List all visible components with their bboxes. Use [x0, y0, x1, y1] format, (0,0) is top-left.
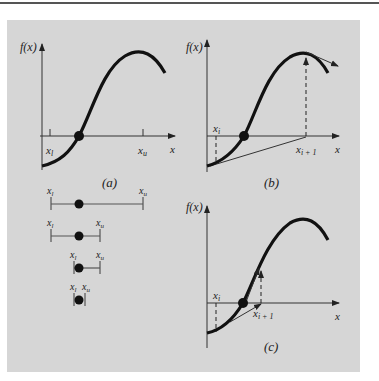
xl-label: xl — [45, 144, 54, 158]
ylabel: f(x) — [186, 200, 203, 214]
xi-label: xi — [212, 122, 220, 136]
interval-row-2: xl xu — [46, 217, 104, 242]
interval-row-1: xl xu — [46, 185, 147, 210]
svg-text:xu: xu — [95, 249, 104, 262]
tangent-line — [210, 137, 306, 166]
panel-a: f(x) xl xu x (a) — [20, 40, 175, 190]
xi-label: xi — [212, 289, 220, 303]
xlabel: x — [169, 143, 175, 155]
figure-svg: f(x) xl xu x (a) xl xu xl xu xl xu — [0, 0, 379, 381]
bisection-intervals: xl xu xl xu xl xu xl xu — [46, 185, 147, 306]
panel-c: f(x) xi xi + 1 x (c) — [186, 200, 340, 354]
svg-text:xl: xl — [46, 185, 53, 198]
interval-row-4: xl xu — [69, 281, 90, 306]
xi1-label: xi + 1 — [252, 307, 274, 321]
panel-b: f(x) xi xi + 1 x (b) — [186, 40, 340, 190]
svg-text:xl: xl — [69, 281, 76, 294]
root-dot — [75, 264, 84, 273]
root-dot — [238, 298, 248, 308]
xlabel: x — [334, 310, 340, 322]
root-dot — [75, 296, 84, 305]
ylabel: f(x) — [20, 40, 37, 54]
svg-text:xu: xu — [81, 281, 90, 294]
caption-c: (c) — [264, 339, 278, 354]
root-dot — [75, 232, 84, 241]
caption-b: (b) — [264, 175, 279, 190]
caption-a: (a) — [102, 175, 117, 190]
svg-text:xu: xu — [95, 217, 104, 230]
root-dot — [75, 200, 84, 209]
xu-label: xu — [137, 144, 147, 158]
root-dot — [74, 131, 84, 141]
xlabel: x — [334, 143, 340, 155]
ylabel: f(x) — [186, 40, 203, 54]
interval-row-3: xl xu — [69, 249, 104, 274]
tangent-arrow — [246, 268, 259, 302]
svg-text:xl: xl — [69, 249, 76, 262]
root-dot — [239, 131, 249, 141]
xi1-label: xi + 1 — [295, 143, 317, 157]
svg-text:xu: xu — [138, 185, 147, 198]
svg-text:xl: xl — [46, 217, 53, 230]
